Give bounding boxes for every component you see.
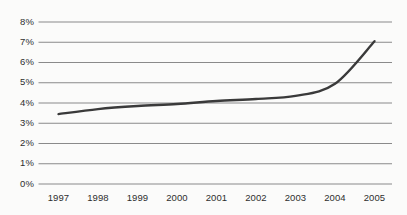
x-axis-label-2005: 2005 [355, 192, 395, 203]
x-axis-label-2002: 2002 [236, 192, 276, 203]
x-axis-label-2001: 2001 [197, 192, 237, 203]
x-axis-label-1997: 1997 [39, 192, 79, 203]
x-axis-label-1998: 1998 [78, 192, 118, 203]
chart-container: 0%1%2%3%4%5%6%7%8% 199719981999200020012… [0, 0, 407, 215]
x-axis-label-1999: 1999 [118, 192, 158, 203]
x-axis-label-2000: 2000 [157, 192, 197, 203]
x-axis-tick-labels: 199719981999200020012002200320042005 [0, 0, 407, 215]
x-axis-label-2003: 2003 [276, 192, 316, 203]
x-axis-label-2004: 2004 [315, 192, 355, 203]
